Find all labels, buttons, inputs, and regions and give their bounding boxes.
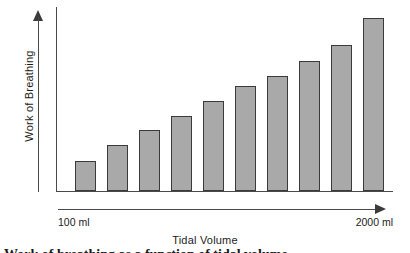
bar <box>235 86 256 191</box>
bar <box>107 145 128 191</box>
figure-caption-text: Work of breathing as a function of tidal… <box>0 249 410 253</box>
arrow-right-head <box>375 204 386 214</box>
bar <box>171 116 192 191</box>
arrow-right-shaft <box>58 209 376 210</box>
x-axis-label: Tidal Volume <box>0 234 410 246</box>
bar <box>267 76 288 191</box>
bar <box>299 61 320 191</box>
bar <box>363 18 384 191</box>
bar <box>203 101 224 191</box>
x-axis-baseline <box>56 191 393 192</box>
bar <box>139 130 160 191</box>
x-tick-label-max: 2000 ml <box>356 216 393 228</box>
figure-caption-partial: Work of breathing as a function of tidal… <box>0 249 410 253</box>
x-tick-label-min: 100 ml <box>58 216 90 228</box>
plot-area <box>0 0 410 191</box>
bar <box>331 45 352 191</box>
bar <box>75 161 96 191</box>
arrow-right-icon <box>58 204 386 215</box>
chart-figure: Work of Breathing 100 ml 2000 ml Tidal V… <box>0 0 410 253</box>
